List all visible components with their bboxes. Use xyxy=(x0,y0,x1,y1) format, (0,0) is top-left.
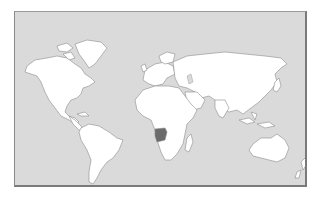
south-america xyxy=(79,124,123,184)
angola-highlighted xyxy=(155,128,167,142)
europe xyxy=(143,62,175,86)
indonesia xyxy=(239,112,275,128)
greenland xyxy=(75,40,107,68)
scandinavia xyxy=(159,52,175,64)
australia xyxy=(249,134,289,162)
map-frame xyxy=(14,11,307,187)
new-zealand xyxy=(295,158,307,178)
madagascar xyxy=(185,134,193,152)
world-map xyxy=(15,12,307,187)
caribbean xyxy=(77,112,89,116)
